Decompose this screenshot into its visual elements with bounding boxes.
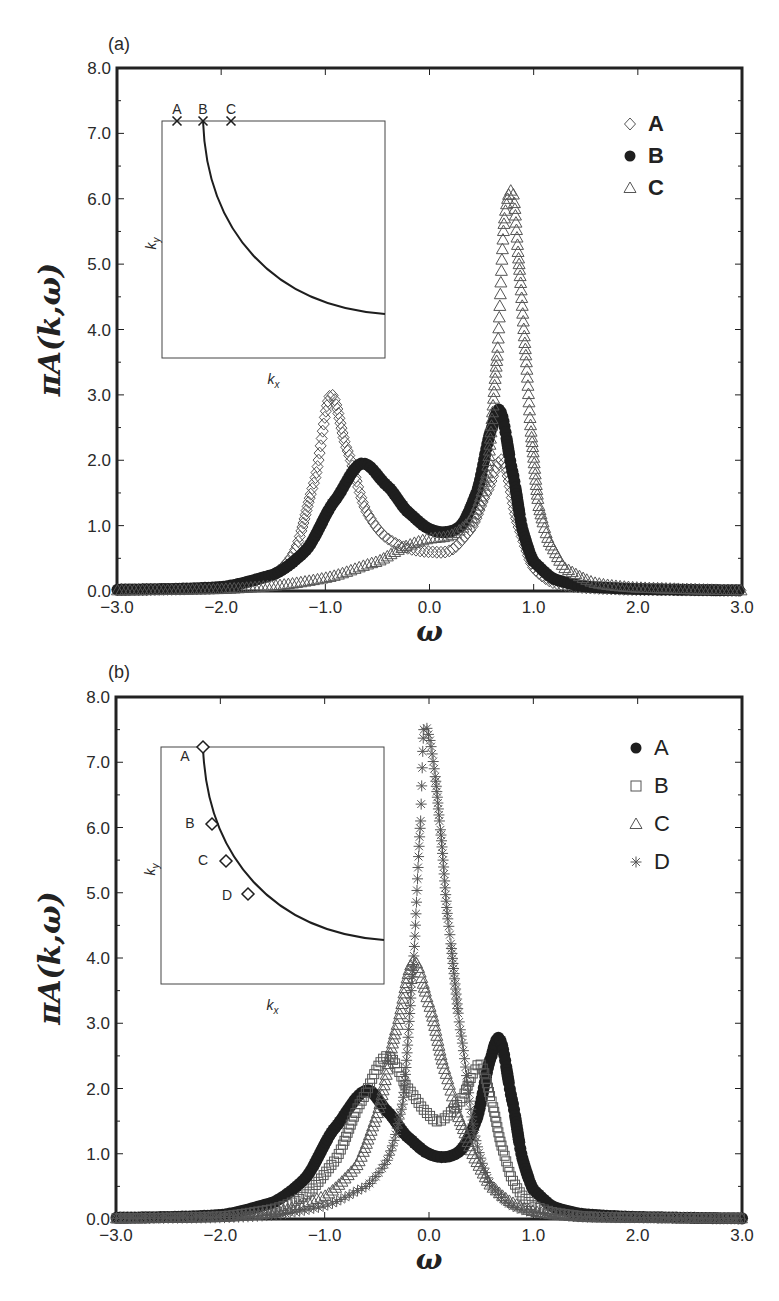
x-tick-label: 1.0 xyxy=(522,1226,546,1245)
x-tick-label: −2.0 xyxy=(204,1226,238,1245)
inset-x-label: kx xyxy=(267,997,280,1016)
figure: (a) πA(k,ω) −3.0−2.0−1.00.01.02.03.0 0.0… xyxy=(0,0,779,1301)
y-tick-label: 2.0 xyxy=(86,1080,110,1099)
inset-y-label: ky xyxy=(142,863,161,876)
panel-a-xlabel: ω xyxy=(416,615,443,648)
y-tick-label: 1.0 xyxy=(87,517,111,536)
y-tick-label: 8.0 xyxy=(87,59,111,78)
panel-a-label: (a) xyxy=(108,34,130,54)
y-tick-label: 4.0 xyxy=(86,949,110,968)
panel-b-xlabel: ω xyxy=(416,1243,443,1276)
y-tick-label: 4.0 xyxy=(87,321,111,340)
inset-y-label: ky xyxy=(143,237,162,250)
x-tick-label: 3.0 xyxy=(730,1226,754,1245)
series-B xyxy=(112,1052,744,1223)
y-tick-label: 8.0 xyxy=(86,688,110,707)
x-tick-label: 3.0 xyxy=(730,598,754,617)
panel-b-legend: ABCD xyxy=(630,735,670,874)
plot-frame xyxy=(116,697,742,1219)
fermi-surface-curve xyxy=(203,121,385,314)
panel-a: (a) πA(k,ω) −3.0−2.0−1.00.01.02.03.0 0.0… xyxy=(32,34,754,648)
legend-label: B xyxy=(654,773,669,798)
y-tick-label: 0.0 xyxy=(86,1210,110,1229)
legend-label: C xyxy=(648,175,664,200)
x-tick-label: −1.0 xyxy=(309,598,343,617)
legend-item-B: B xyxy=(631,773,669,798)
y-tick-label: 3.0 xyxy=(86,1014,110,1033)
inset-point-C: C xyxy=(198,852,232,868)
series-A xyxy=(112,389,746,596)
inset-point-A: A xyxy=(172,101,182,126)
inset-point-B: B xyxy=(185,815,218,831)
inset-point-label: A xyxy=(180,748,190,764)
y-tick-label: 6.0 xyxy=(87,190,111,209)
legend-item-A: A xyxy=(625,111,665,136)
y-tick-label: 7.0 xyxy=(87,124,111,143)
y-tick-label: 2.0 xyxy=(87,451,111,470)
inset-point-label: A xyxy=(172,101,182,117)
y-tick-label: 5.0 xyxy=(87,255,111,274)
y-tick-label: 3.0 xyxy=(87,386,111,405)
fermi-surface-curve xyxy=(203,747,384,940)
panel-b-ylabel: πA(k,ω) xyxy=(32,891,67,1025)
y-tick-label: 7.0 xyxy=(86,753,110,772)
inset-frame xyxy=(161,747,384,984)
inset-frame xyxy=(162,121,385,358)
panel-a-ylabel: πA(k,ω) xyxy=(32,263,67,397)
panel-a-inset: kxkyABC xyxy=(143,101,385,390)
y-tick-label: 1.0 xyxy=(86,1145,110,1164)
inset-point-label: C xyxy=(226,101,236,117)
legend-label: B xyxy=(648,143,664,168)
legend-label: A xyxy=(648,111,664,136)
inset-x-label: kx xyxy=(268,371,281,390)
series-A xyxy=(110,1032,748,1225)
legend-label: C xyxy=(654,811,670,836)
x-tick-label: 2.0 xyxy=(626,598,650,617)
inset-point-label: B xyxy=(198,101,207,117)
x-tick-label: −1.0 xyxy=(308,1226,342,1245)
panel-b: (b) πA(k,ω) −3.0−2.0−1.00.01.02.03.0 0.0… xyxy=(32,662,754,1276)
x-tick-label: 1.0 xyxy=(522,598,546,617)
legend-label: D xyxy=(654,849,670,874)
panel-a-legend: ABC xyxy=(624,111,664,200)
legend-item-D: D xyxy=(631,849,670,874)
legend-item-C: C xyxy=(630,811,670,836)
panel-b-label: (b) xyxy=(108,662,130,682)
inset-point-D: D xyxy=(222,887,254,903)
legend-item-B: B xyxy=(625,143,664,168)
y-axis-title: πA(k,ω) xyxy=(32,891,67,1025)
inset-point-C: C xyxy=(226,101,236,126)
legend-item-A: A xyxy=(631,735,670,760)
y-axis-title: πA(k,ω) xyxy=(32,263,67,397)
series-B xyxy=(111,403,744,596)
inset-point-label: D xyxy=(222,887,232,903)
y-tick-label: 5.0 xyxy=(86,884,110,903)
y-tick-label: 0.0 xyxy=(87,582,111,601)
inset-point-label: B xyxy=(185,815,194,831)
legend-label: A xyxy=(654,735,669,760)
y-tick-label: 6.0 xyxy=(86,819,110,838)
x-tick-label: −2.0 xyxy=(204,598,238,617)
legend-item-C: C xyxy=(624,175,664,200)
x-tick-label: 2.0 xyxy=(626,1226,650,1245)
panel-b-inset: kxkyABCD xyxy=(142,741,384,1016)
inset-point-B: B xyxy=(198,101,207,126)
inset-point-label: C xyxy=(198,852,208,868)
series-C xyxy=(111,956,748,1223)
